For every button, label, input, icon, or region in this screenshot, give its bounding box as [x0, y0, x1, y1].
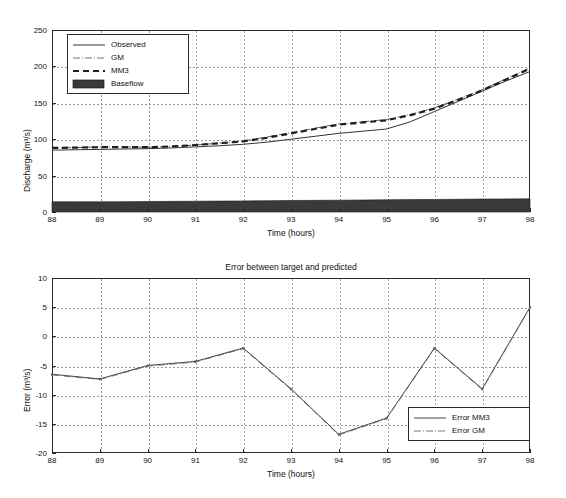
hydrograph-x-axis-title: Time (hours) [52, 228, 530, 238]
x-tick-label: 93 [287, 456, 296, 465]
legend-item-gm: GM [72, 51, 183, 64]
x-tick [387, 449, 388, 453]
mm3-line-icon [72, 66, 106, 76]
x-tick [195, 449, 196, 453]
legend-label-gm: GM [111, 53, 124, 63]
x-tick [243, 208, 244, 212]
x-tick-label: 97 [478, 215, 487, 224]
x-tick-label: 91 [191, 456, 200, 465]
x-tick [434, 208, 435, 212]
y-tick-label: 50 [20, 171, 47, 180]
x-tick [339, 449, 340, 453]
error-gm-line-icon [413, 426, 447, 436]
y-tick-label: -15 [20, 419, 47, 428]
error-legend: Error MM3 Error GM [408, 407, 530, 441]
y-tick-label: -10 [20, 390, 47, 399]
x-tick [148, 208, 149, 212]
x-tick-label: 90 [143, 456, 152, 465]
observed-line-icon [72, 40, 106, 50]
x-tick-label: 92 [239, 456, 248, 465]
gm-line-icon [72, 53, 106, 63]
y-tick [52, 366, 56, 367]
hydrograph-panel: Discharge (m³/s) Time (hours) Observed G… [0, 0, 566, 250]
y-tick-label: 200 [20, 62, 47, 71]
x-tick-label: 92 [239, 215, 248, 224]
x-tick-label: 97 [478, 456, 487, 465]
x-tick [100, 208, 101, 212]
x-tick [387, 208, 388, 212]
y-tick [52, 139, 56, 140]
data-point [147, 365, 149, 367]
y-tick [52, 453, 56, 454]
baseflow-patch-icon [72, 79, 106, 89]
x-tick-label: 95 [382, 215, 391, 224]
x-tick-label: 88 [48, 215, 57, 224]
y-tick [52, 278, 56, 279]
data-point [194, 361, 196, 363]
legend-label-observed: Observed [111, 40, 146, 50]
x-tick [291, 208, 292, 212]
y-tick [52, 176, 56, 177]
x-tick-label: 91 [191, 215, 200, 224]
legend-label-baseflow: Baseflow [111, 79, 143, 89]
x-tick-label: 96 [430, 456, 439, 465]
x-tick-label: 89 [95, 456, 104, 465]
x-tick [339, 208, 340, 212]
y-tick [52, 66, 56, 67]
chart-page: Discharge (m³/s) Time (hours) Observed G… [0, 0, 566, 498]
legend-label-error-mm3: Error MM3 [452, 413, 490, 423]
x-tick [243, 449, 244, 453]
y-tick-label: -5 [20, 361, 47, 370]
data-point [99, 378, 101, 380]
error-panel: Error between target and predicted Error… [0, 250, 566, 498]
y-tick-label: 0 [20, 332, 47, 341]
data-point [386, 417, 388, 419]
y-tick-label: 250 [20, 26, 47, 35]
legend-item-mm3: MM3 [72, 64, 183, 77]
data-point [290, 388, 292, 390]
x-tick-label: 96 [430, 215, 439, 224]
legend-item-error-gm: Error GM [413, 424, 524, 437]
x-tick [530, 449, 531, 453]
x-tick [100, 449, 101, 453]
y-tick-label: 150 [20, 98, 47, 107]
x-tick [291, 449, 292, 453]
y-tick [52, 212, 56, 213]
data-point [481, 388, 483, 390]
x-tick [482, 449, 483, 453]
x-tick-label: 98 [526, 456, 535, 465]
hydrograph-legend: Observed GM MM3 Baseflow [67, 34, 189, 94]
data-point [51, 374, 53, 376]
x-tick [434, 449, 435, 453]
x-tick-label: 94 [334, 215, 343, 224]
legend-label-mm3: MM3 [111, 66, 129, 76]
x-tick [195, 208, 196, 212]
x-tick [482, 208, 483, 212]
y-tick [52, 395, 56, 396]
y-tick [52, 424, 56, 425]
x-tick [530, 208, 531, 212]
y-tick-label: 0 [20, 208, 47, 217]
y-tick-label: 10 [20, 274, 47, 283]
data-point [338, 434, 340, 436]
y-tick-label: 100 [20, 135, 47, 144]
x-tick-label: 94 [334, 456, 343, 465]
data-point [529, 307, 531, 309]
x-tick-label: 95 [382, 456, 391, 465]
legend-item-error-mm3: Error MM3 [413, 411, 524, 424]
legend-item-baseflow: Baseflow [72, 77, 183, 90]
legend-label-error-gm: Error GM [452, 426, 485, 436]
y-tick [52, 30, 56, 31]
error-x-axis-title: Time (hours) [52, 469, 530, 479]
y-tick-label: 5 [20, 303, 47, 312]
y-tick-label: -20 [20, 449, 47, 458]
legend-item-observed: Observed [72, 38, 183, 51]
x-tick-label: 93 [287, 215, 296, 224]
error-mm3-line-icon [413, 413, 447, 423]
x-tick-label: 89 [95, 215, 104, 224]
y-tick [52, 336, 56, 337]
x-tick-label: 98 [526, 215, 535, 224]
data-point [242, 347, 244, 349]
x-tick-label: 88 [48, 456, 57, 465]
x-tick-label: 90 [143, 215, 152, 224]
